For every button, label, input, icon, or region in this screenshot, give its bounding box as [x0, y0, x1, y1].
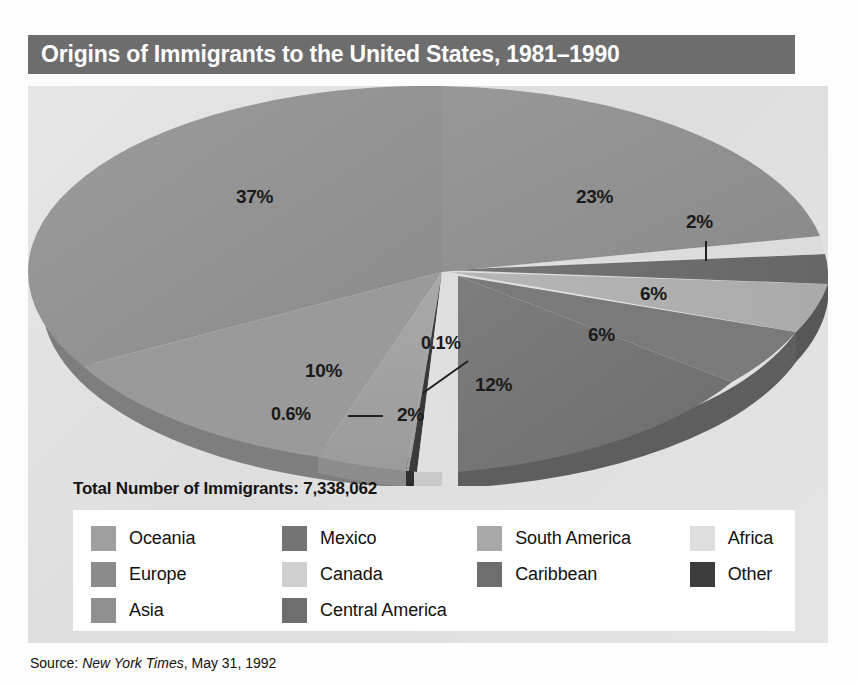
chart-panel: 37% 23% 2% 6% 6% 12% 0.1% 2% 0.6% 10% To… — [28, 86, 828, 643]
source-prefix: Source: — [30, 655, 82, 671]
legend-item-other[interactable]: Other — [690, 556, 795, 592]
legend-item-empty — [477, 592, 690, 628]
legend-label: Canada — [320, 564, 382, 585]
legend-swatch-icon — [477, 562, 502, 587]
legend-item-asia[interactable]: Asia — [91, 592, 282, 628]
pie-label-caribbean: 6% — [640, 283, 667, 305]
pie-label-asia: 23% — [576, 186, 613, 208]
legend-item-europe[interactable]: Europe — [91, 556, 282, 592]
chart-title-band: Origins of Immigrants to the United Stat… — [28, 35, 795, 74]
legend-row: Europe Canada Caribbean Other — [91, 556, 795, 592]
source-suffix: , May 31, 1992 — [184, 655, 277, 671]
legend-label: Other — [728, 564, 773, 585]
legend-swatch-icon — [690, 526, 715, 551]
source-publication: New York Times — [82, 655, 184, 671]
legend-item-empty — [690, 592, 795, 628]
page-title: Origins of Immigrants to the United Stat… — [28, 41, 620, 68]
legend-item-central-america[interactable]: Central America — [282, 592, 477, 628]
legend-swatch-icon — [690, 562, 715, 587]
legend-row: Asia Central America — [91, 592, 795, 628]
legend-item-oceania[interactable]: Oceania — [91, 520, 282, 556]
legend-label: South America — [515, 528, 631, 549]
pie-chart-svg — [28, 86, 828, 486]
total-immigrants-label: Total Number of Immigrants: 7,338,062 — [73, 479, 377, 499]
pie-label-oceania: 0.1% — [421, 333, 461, 354]
pie-label-other: 0.6% — [271, 404, 311, 425]
source-line: Source: New York Times, May 31, 1992 — [30, 655, 276, 671]
legend-label: Europe — [129, 564, 186, 585]
legend-item-canada[interactable]: Canada — [282, 556, 477, 592]
pie-label-south-america: 6% — [588, 324, 615, 346]
pie-chart: 37% 23% 2% 6% 6% 12% 0.1% 2% 0.6% 10% — [28, 86, 828, 486]
legend-label: Asia — [129, 600, 164, 621]
legend-item-caribbean[interactable]: Caribbean — [477, 556, 690, 592]
legend-label: Central America — [320, 600, 447, 621]
legend-swatch-icon — [477, 526, 502, 551]
chart-figure: Origins of Immigrants to the United Stat… — [0, 0, 857, 685]
legend-item-mexico[interactable]: Mexico — [282, 520, 477, 556]
legend-label: Caribbean — [515, 564, 597, 585]
legend-row: Oceania Mexico South America Africa — [91, 520, 795, 556]
legend-grid: Oceania Mexico South America Africa — [73, 510, 795, 631]
legend-item-africa[interactable]: Africa — [690, 520, 795, 556]
legend-swatch-icon — [91, 598, 116, 623]
legend-swatch-icon — [91, 526, 116, 551]
legend-label: Oceania — [129, 528, 195, 549]
pie-label-central-america: 10% — [305, 360, 342, 382]
legend-label: Africa — [728, 528, 773, 549]
pie-label-canada: 2% — [686, 211, 713, 233]
legend-label: Mexico — [320, 528, 376, 549]
legend-swatch-icon — [282, 598, 307, 623]
legend-swatch-icon — [282, 526, 307, 551]
pie-label-africa: 2% — [397, 404, 424, 426]
legend-swatch-icon — [91, 562, 116, 587]
legend-swatch-icon — [282, 562, 307, 587]
legend-item-south-america[interactable]: South America — [477, 520, 690, 556]
pie-label-europe: 37% — [236, 186, 273, 208]
legend: Oceania Mexico South America Africa — [73, 510, 795, 631]
pie-label-mexico: 12% — [475, 374, 512, 396]
